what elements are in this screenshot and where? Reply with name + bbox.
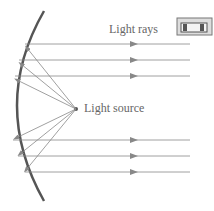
light-rays-label: Light rays	[109, 22, 158, 37]
incident-rays	[16, 48, 76, 170]
light-source-label: Light source	[84, 101, 144, 116]
parabolic-mirror	[17, 11, 44, 201]
flashlight-icon	[177, 18, 212, 35]
